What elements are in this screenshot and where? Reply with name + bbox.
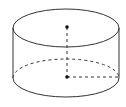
cylinder-figure <box>0 0 126 107</box>
bottom-front-arc <box>13 78 119 97</box>
bottom-center-dot <box>65 75 69 79</box>
bottom-back-arc <box>13 59 119 78</box>
top-center-dot <box>65 25 69 29</box>
cylinder-diagram <box>0 0 126 107</box>
